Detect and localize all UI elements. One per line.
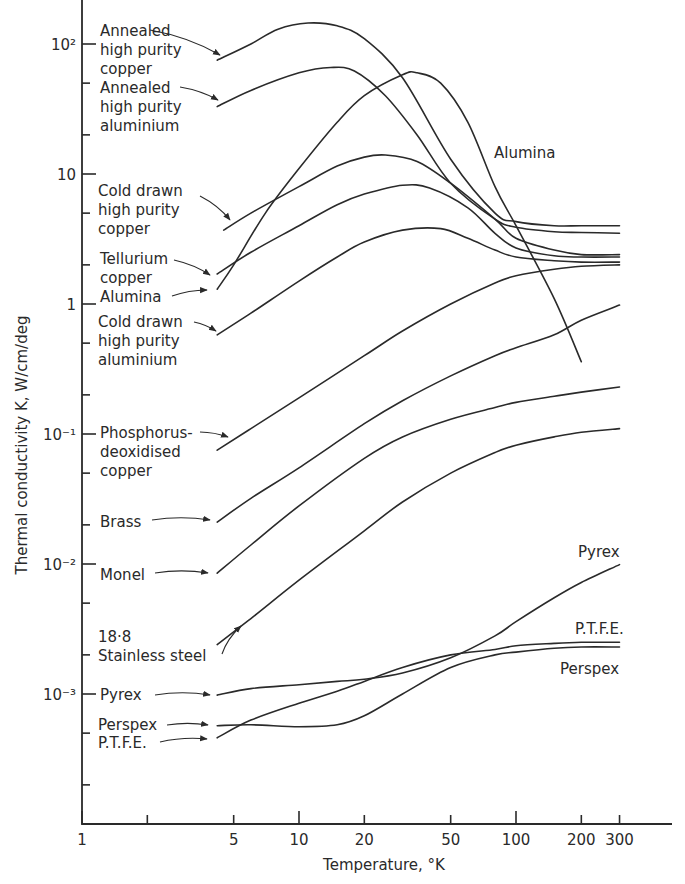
label-arrow (194, 322, 216, 331)
curve-label: Alumina (494, 144, 555, 162)
curve-label-text: Cold drawn (98, 313, 183, 331)
x-tick-label: 1 (77, 831, 87, 849)
x-tick-label: 200 (567, 831, 596, 849)
curve-label-text: Phosphorus- (100, 424, 193, 442)
curve-p-t-f-e (217, 642, 619, 738)
label-arrow (160, 738, 207, 742)
curve-label-text: copper (100, 60, 153, 78)
label-arrow (172, 290, 207, 296)
y-axis-label: Thermal conductivity K, W/cm/deg (13, 316, 31, 576)
curve-label-text: copper (100, 462, 153, 480)
curve-labels: Annealedhigh puritycopperAnnealedhigh pu… (98, 22, 624, 752)
curve-alumina (217, 72, 581, 362)
y-tick-label: 10 (57, 166, 76, 184)
curve-label: 18·8Stainless steel (98, 626, 241, 665)
curve-label-text: high purity (98, 201, 180, 219)
curve-annealed-high-purity-aluminium (217, 67, 619, 233)
x-tick-label: 100 (502, 831, 531, 849)
x-tick-label: 20 (355, 831, 374, 849)
curve-label-text: high purity (100, 41, 182, 59)
curve-label: Telluriumcopper (99, 250, 210, 287)
thermal-conductivity-chart: 10²10110⁻¹10⁻²10⁻³ 15102050100200300 Ann… (0, 0, 685, 884)
curve-label-text: Pyrex (100, 686, 142, 704)
label-arrow (152, 518, 210, 520)
curve-label-text: Stainless steel (98, 647, 206, 665)
curve-label: Perspex (98, 716, 208, 734)
curve-cold-drawn-high-purity-copper (224, 155, 620, 255)
y-tick-label: 1 (66, 296, 76, 314)
curve-label-text: P.T.F.E. (575, 620, 624, 638)
y-tick-label: 10⁻³ (43, 686, 76, 704)
label-arrow (155, 693, 210, 695)
curve-label-text: copper (98, 220, 151, 238)
curve-label: Phosphorus-deoxidisedcopper (100, 424, 228, 480)
curve-label: Annealedhigh puritycopper (100, 22, 220, 78)
x-tick-label: 10 (289, 831, 308, 849)
curve-label-text: Alumina (100, 288, 161, 306)
x-tick-label: 50 (441, 831, 460, 849)
label-arrow (200, 432, 228, 437)
curve-label-text: Annealed (100, 22, 171, 40)
curve-label: Cold drawnhigh puritycopper (98, 182, 230, 238)
curve-label-text: Monel (100, 566, 145, 584)
label-arrow (180, 87, 218, 100)
curves (217, 23, 619, 738)
x-axis-label: Temperature, °K (322, 856, 446, 874)
curve-label-text: aluminium (100, 117, 179, 135)
curve-label: Brass (100, 513, 210, 531)
curve-phosphorus-deoxidised-copper (217, 265, 619, 450)
curve-monel (217, 387, 619, 573)
curve-label: Pyrex (578, 543, 620, 561)
curve-label: P.T.F.E. (98, 734, 207, 752)
curve-label: Cold drawnhigh purityaluminium (98, 313, 216, 369)
curve-label-text: Pyrex (578, 543, 620, 561)
curve-label-text: Perspex (560, 660, 619, 678)
curve-label-text: Cold drawn (98, 182, 183, 200)
curve-label-text: Alumina (494, 144, 555, 162)
curve-label-text: Perspex (98, 716, 157, 734)
curve-label-text: Annealed (100, 79, 171, 97)
curve-label: Monel (100, 566, 208, 584)
curve-label-text: 18·8 (98, 628, 131, 646)
curve-label: Perspex (560, 660, 619, 678)
label-arrow (174, 260, 210, 275)
curve-label-text: copper (100, 269, 153, 287)
y-tick-label: 10² (51, 36, 76, 54)
label-arrow (200, 196, 230, 220)
y-tick-label: 10⁻¹ (43, 426, 76, 444)
curve-label-text: Tellurium (99, 250, 168, 268)
curve-cold-drawn-high-purity-aluminium (217, 228, 619, 335)
label-arrow (222, 626, 241, 654)
curve-label-text: aluminium (98, 351, 177, 369)
curve-label: Annealedhigh purityaluminium (100, 79, 218, 135)
curve-label-text: high purity (100, 98, 182, 116)
curve-label: Pyrex (100, 686, 210, 704)
curve-label: P.T.F.E. (575, 620, 624, 638)
curve-label-text: high purity (98, 332, 180, 350)
curve-label-text: P.T.F.E. (98, 734, 147, 752)
y-tick-label: 10⁻² (43, 556, 76, 574)
x-tick-label: 5 (229, 831, 239, 849)
curve-label-text: deoxidised (100, 443, 181, 461)
x-tick-label: 300 (605, 831, 634, 849)
x-axis: 15102050100200300 (77, 811, 634, 849)
curve-18-8-stainless-steel (217, 429, 619, 645)
curve-brass (217, 305, 619, 522)
curve-label-text: Brass (100, 513, 141, 531)
label-arrow (167, 723, 208, 725)
label-arrow (155, 571, 208, 573)
curve-label: Alumina (100, 288, 207, 306)
